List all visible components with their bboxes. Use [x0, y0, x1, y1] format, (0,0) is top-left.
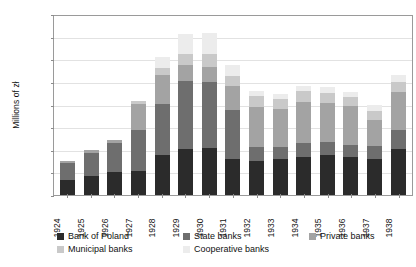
bar-segment	[178, 34, 193, 54]
x-axis-tickmark	[209, 194, 210, 198]
bar-column[interactable]	[84, 150, 99, 195]
bar-segment	[131, 171, 146, 195]
bar-segment	[202, 82, 217, 148]
legend-label: State banks	[194, 231, 242, 241]
bar-segment	[320, 93, 335, 103]
x-axis-tickmark	[138, 194, 139, 198]
bar-column[interactable]	[131, 101, 146, 195]
bar-segment	[225, 76, 240, 86]
bar-segment	[391, 149, 406, 195]
bar-column[interactable]	[391, 75, 406, 195]
x-axis-tickmark	[67, 194, 68, 198]
x-axis-tickmark	[328, 194, 329, 198]
stacked-bar-chart: Millions of zł 05001,0001,5002,0002,5003…	[0, 0, 416, 267]
legend-row-2: Municipal banks Cooperative banks	[57, 244, 409, 254]
x-axis-tickmark	[351, 194, 352, 198]
bar-segment	[367, 159, 382, 195]
bar-segment	[60, 180, 75, 195]
legend-label: Private banks	[320, 231, 375, 241]
legend-item-cooperative-banks: Cooperative banks	[183, 244, 309, 254]
bar-column[interactable]	[273, 94, 288, 195]
x-axis-tickmark	[185, 194, 186, 198]
x-axis-tickmark	[280, 194, 281, 198]
bar-segment	[343, 145, 358, 157]
bar-segment	[225, 86, 240, 110]
chart-legend: Bank of Poland State banks Private banks…	[57, 231, 409, 257]
bar-segment	[84, 176, 99, 195]
bar-column[interactable]	[367, 105, 382, 195]
bar-segment	[343, 97, 358, 106]
legend-swatch-icon	[309, 233, 316, 240]
bar-segment	[155, 57, 170, 67]
legend-swatch-icon	[183, 233, 190, 240]
bar-column[interactable]	[249, 91, 264, 195]
bar-segment	[178, 54, 193, 65]
bar-column[interactable]	[296, 86, 311, 195]
bar-segment	[131, 104, 146, 130]
bar-segment	[225, 65, 240, 76]
bar-segment	[155, 68, 170, 75]
x-axis-tickmark	[233, 194, 234, 198]
bar-segment	[155, 104, 170, 156]
bar-segment	[107, 143, 122, 172]
x-axis-tickmark	[91, 194, 92, 198]
bar-segment	[343, 106, 358, 144]
bar-segment	[367, 111, 382, 121]
y-axis-tickmark	[51, 196, 54, 197]
bar-segment	[155, 155, 170, 195]
x-axis-tickmark	[257, 194, 258, 198]
bar-column[interactable]	[107, 140, 122, 195]
bar-column[interactable]	[60, 161, 75, 195]
legend-item-private-banks: Private banks	[309, 231, 409, 241]
legend-label: Cooperative banks	[194, 244, 269, 254]
legend-item-municipal-banks: Municipal banks	[57, 244, 183, 254]
bar-segment	[273, 99, 288, 109]
bar-segment	[273, 109, 288, 147]
bar-segment	[225, 159, 240, 195]
legend-swatch-icon	[57, 233, 64, 240]
bar-segment	[249, 147, 264, 161]
bar-segment	[296, 143, 311, 157]
x-axis-tickmark	[375, 194, 376, 198]
bar-segment	[296, 91, 311, 102]
x-axis-tickmark	[304, 194, 305, 198]
bar-column[interactable]	[178, 34, 193, 196]
bar-segment	[343, 157, 358, 195]
bar-segment	[131, 130, 146, 171]
bar-series-group	[54, 16, 412, 195]
bar-segment	[391, 82, 406, 92]
bar-segment	[249, 107, 264, 147]
bar-segment	[249, 161, 264, 195]
bar-segment	[273, 147, 288, 159]
bar-column[interactable]	[225, 65, 240, 195]
bar-segment	[320, 142, 335, 155]
bar-segment	[391, 75, 406, 82]
legend-item-bank-of-poland: Bank of Poland	[57, 231, 183, 241]
bar-column[interactable]	[343, 92, 358, 195]
bar-column[interactable]	[155, 57, 170, 195]
bar-segment	[367, 146, 382, 159]
bar-column[interactable]	[320, 87, 335, 195]
legend-label: Bank of Poland	[68, 231, 129, 241]
bar-segment	[391, 92, 406, 130]
bar-segment	[296, 102, 311, 143]
bar-segment	[320, 103, 335, 142]
x-axis-tickmark	[399, 194, 400, 198]
legend-swatch-icon	[57, 246, 64, 253]
bar-segment	[178, 149, 193, 195]
y-axis-title: Millions of zł	[11, 45, 21, 165]
x-axis-tickmark	[114, 194, 115, 198]
bar-segment	[155, 75, 170, 104]
bar-segment	[320, 155, 335, 195]
bar-segment	[178, 81, 193, 149]
bar-segment	[273, 159, 288, 195]
plot-area: 05001,0001,5002,0002,5003,0003,5004,000	[53, 15, 413, 196]
bar-segment	[225, 110, 240, 159]
bar-segment	[84, 153, 99, 176]
bar-segment	[202, 67, 217, 82]
bar-segment	[249, 96, 264, 106]
bar-segment	[178, 65, 193, 80]
bar-column[interactable]	[202, 33, 217, 195]
bar-segment	[60, 163, 75, 180]
legend-swatch-icon	[183, 246, 190, 253]
